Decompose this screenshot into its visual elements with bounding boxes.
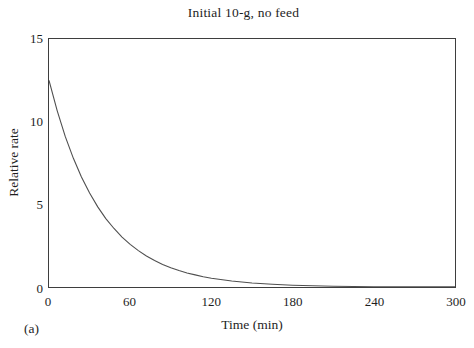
y-tick-label: 15 xyxy=(0,31,43,46)
x-tick-label: 300 xyxy=(446,294,466,309)
x-tick-label: 120 xyxy=(201,294,221,309)
chart-title: Initial 10-g, no feed xyxy=(40,5,447,21)
plot-area xyxy=(48,38,456,288)
y-tick-label: 5 xyxy=(0,197,43,212)
x-axis-label: Time (min) xyxy=(48,317,456,333)
y-tick-label: 10 xyxy=(0,114,43,129)
figure: Initial 10-g, no feed Relative rate 0510… xyxy=(0,0,474,348)
decay-curve xyxy=(49,80,455,287)
y-tick-label: 0 xyxy=(0,281,43,296)
decay-curve-canvas xyxy=(49,39,455,287)
x-tick-label: 0 xyxy=(45,294,52,309)
x-tick-label: 180 xyxy=(283,294,303,309)
x-tick-label: 240 xyxy=(365,294,385,309)
panel-label: (a) xyxy=(24,321,39,337)
x-tick-label: 60 xyxy=(123,294,136,309)
